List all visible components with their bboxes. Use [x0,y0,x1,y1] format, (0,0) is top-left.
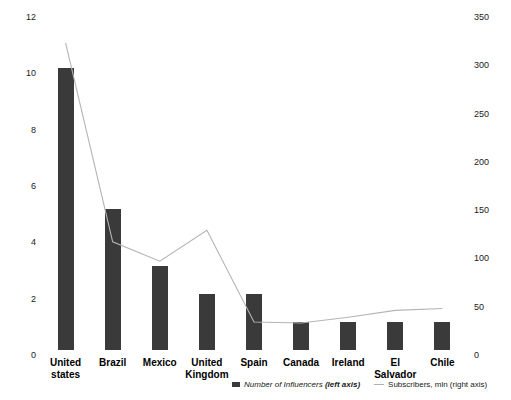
right-axis-tick-label: 300 [474,60,489,70]
subscribers-line [66,43,443,323]
x-axis-label: El Salvador [372,357,419,381]
x-axis-label: Canada [278,357,325,369]
x-axis-label: Spain [230,357,277,369]
left-axis-tick-label: 0 [31,350,36,360]
right-axis-tick-label: 200 [474,157,489,167]
left-axis-tick-label: 6 [31,181,36,191]
line-marker-icon [374,384,384,385]
legend-item-influencers: Number of Influencers (left axis) [232,380,360,389]
right-axis-tick-label: 350 [474,12,489,22]
right-y-axis: 050100150200250300350 [474,0,511,400]
dual-axis-chart: 024681012 050100150200250300350 United s… [0,0,511,400]
left-axis-tick-label: 8 [31,125,36,135]
bar-marker-icon [232,382,240,387]
x-axis-label: Chile [419,357,466,369]
left-axis-tick-label: 12 [26,12,36,22]
x-axis-label: Ireland [325,357,372,369]
left-y-axis: 024681012 [0,0,36,400]
x-axis-label: United states [42,357,89,381]
legend-item-subscribers: Subscribers, mln (right axis) [374,380,487,389]
plot-area [42,17,466,355]
left-axis-tick-label: 10 [26,68,36,78]
chart-legend: Number of Influencers (left axis) Subscr… [232,380,487,389]
left-axis-tick-label: 2 [31,294,36,304]
right-axis-tick-label: 50 [474,302,484,312]
x-axis-label: Brazil [89,357,136,369]
left-axis-tick-label: 4 [31,237,36,247]
line-series-svg [42,17,466,355]
legend-label-subscribers: Subscribers, mln (right axis) [388,380,487,389]
right-axis-tick-label: 0 [474,350,479,360]
right-axis-tick-label: 100 [474,253,489,263]
x-axis-label: Mexico [136,357,183,369]
x-axis-label: United Kingdom [183,357,230,381]
right-axis-tick-label: 250 [474,109,489,119]
right-axis-tick-label: 150 [474,205,489,215]
line-series-layer [42,17,466,355]
legend-label-influencers: Number of Influencers (left axis) [244,380,360,389]
